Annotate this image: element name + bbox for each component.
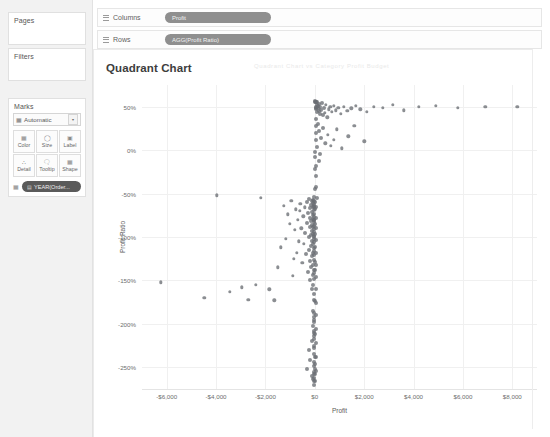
scatter-mark[interactable]: [289, 199, 292, 202]
scatter-mark[interactable]: [516, 105, 519, 108]
scatter-mark[interactable]: [315, 100, 319, 104]
scatter-mark[interactable]: [313, 379, 317, 383]
scatter-mark[interactable]: [328, 105, 331, 108]
scatter-mark[interactable]: [296, 218, 299, 221]
scatter-mark[interactable]: [314, 117, 318, 121]
scatter-mark[interactable]: [313, 299, 317, 303]
marks-button-shape[interactable]: ▦ Shape: [59, 154, 81, 177]
scatter-mark[interactable]: [299, 202, 302, 205]
scatter-mark[interactable]: [203, 296, 206, 299]
scatter-mark[interactable]: [282, 204, 285, 207]
scatter-mark[interactable]: [291, 274, 294, 277]
scatter-mark[interactable]: [315, 145, 319, 149]
scatter-mark[interactable]: [323, 111, 326, 114]
scatter-mark[interactable]: [456, 106, 459, 109]
scatter-mark[interactable]: [325, 115, 328, 118]
marks-button-color[interactable]: ▦ Color: [13, 130, 35, 153]
scatter-mark[interactable]: [308, 358, 312, 362]
scatter-mark[interactable]: [372, 105, 375, 108]
filters-shelf-dropzone[interactable]: [9, 62, 85, 80]
scatter-mark[interactable]: [312, 318, 316, 322]
scatter-mark[interactable]: [314, 238, 318, 242]
scatter-mark[interactable]: [246, 298, 249, 301]
scatter-mark[interactable]: [342, 105, 345, 108]
scatter-mark[interactable]: [295, 251, 298, 254]
scatter-mark[interactable]: [288, 222, 291, 225]
scatter-mark[interactable]: [254, 283, 257, 286]
scatter-mark[interactable]: [298, 209, 301, 212]
scatter-mark[interactable]: [284, 237, 287, 240]
scatter-mark[interactable]: [324, 141, 327, 144]
scatter-mark[interactable]: [313, 187, 317, 191]
scatter-mark[interactable]: [483, 105, 486, 108]
scatter-mark[interactable]: [314, 216, 318, 220]
scatter-mark[interactable]: [215, 194, 218, 197]
scatter-mark[interactable]: [293, 228, 296, 231]
scatter-mark[interactable]: [326, 133, 329, 136]
scatter-mark[interactable]: [362, 140, 365, 143]
scatter-mark[interactable]: [314, 174, 318, 178]
scatter-mark[interactable]: [334, 108, 337, 111]
scatter-mark[interactable]: [313, 332, 317, 336]
scatter-mark[interactable]: [228, 290, 231, 293]
marks-button-label[interactable]: ▣ Label: [59, 130, 81, 153]
scatter-mark[interactable]: [346, 109, 349, 112]
scatter-mark[interactable]: [339, 112, 342, 115]
scatter-mark[interactable]: [321, 126, 325, 130]
columns-pill-profit[interactable]: Profit: [165, 12, 271, 23]
marks-type-dropdown[interactable]: ▦ Automatic ▾: [13, 113, 81, 126]
scatter-mark[interactable]: [259, 196, 262, 199]
scatter-mark[interactable]: [365, 110, 368, 113]
scatter-mark[interactable]: [313, 372, 317, 376]
scatter-mark[interactable]: [381, 106, 384, 109]
scatter-mark[interactable]: [312, 346, 316, 350]
scatter-mark[interactable]: [159, 280, 162, 283]
rows-shelf[interactable]: Rows AGG(Profit Ratio): [97, 30, 542, 49]
scatter-mark[interactable]: [350, 107, 353, 110]
scatter-mark[interactable]: [240, 286, 243, 289]
scatter-mark[interactable]: [332, 138, 335, 141]
scatter-mark[interactable]: [353, 124, 356, 127]
marks-year-pill[interactable]: ▤ YEAR(Order...: [22, 181, 81, 192]
scatter-mark[interactable]: [313, 232, 317, 236]
scatter-mark[interactable]: [286, 213, 289, 216]
scatter-mark[interactable]: [335, 128, 338, 131]
scatter-mark[interactable]: [313, 167, 317, 171]
scatter-mark[interactable]: [300, 227, 303, 230]
scatter-mark[interactable]: [313, 207, 317, 211]
scatter-mark[interactable]: [402, 108, 405, 111]
pages-shelf-dropzone[interactable]: [9, 26, 85, 44]
scatter-mark[interactable]: [304, 252, 308, 256]
scatter-mark[interactable]: [302, 214, 305, 217]
scatter-mark[interactable]: [319, 136, 323, 140]
scatter-mark[interactable]: [312, 292, 316, 296]
scatter-mark[interactable]: [314, 313, 318, 317]
scatter-mark[interactable]: [313, 268, 317, 272]
marks-button-detail[interactable]: ∴ Detail: [13, 154, 35, 177]
scatter-mark[interactable]: [337, 106, 340, 109]
scatter-mark[interactable]: [301, 261, 304, 264]
scatter-mark[interactable]: [315, 196, 319, 200]
scatter-mark[interactable]: [312, 383, 316, 387]
scatter-mark[interactable]: [314, 327, 318, 331]
scatter-mark[interactable]: [417, 105, 420, 108]
scatter-mark[interactable]: [303, 206, 306, 209]
scatter-mark[interactable]: [279, 246, 282, 249]
scatter-mark[interactable]: [314, 138, 318, 142]
scatter-mark[interactable]: [292, 257, 295, 260]
marks-button-size[interactable]: ◯ Size: [36, 130, 58, 153]
scatter-mark[interactable]: [314, 275, 318, 279]
scatter-mark[interactable]: [276, 266, 279, 269]
filters-card[interactable]: Filters: [8, 48, 86, 81]
scatter-mark[interactable]: [318, 152, 322, 156]
scatter-mark[interactable]: [307, 348, 311, 352]
scatter-mark[interactable]: [303, 231, 307, 235]
scatter-mark[interactable]: [305, 367, 309, 371]
scatter-mark[interactable]: [330, 110, 333, 113]
scatter-mark[interactable]: [267, 287, 270, 290]
scatter-mark[interactable]: [313, 200, 317, 204]
scatter-mark[interactable]: [294, 208, 297, 211]
scatter-mark[interactable]: [314, 226, 318, 230]
scatter-mark[interactable]: [313, 150, 317, 154]
scatter-mark[interactable]: [314, 251, 318, 255]
